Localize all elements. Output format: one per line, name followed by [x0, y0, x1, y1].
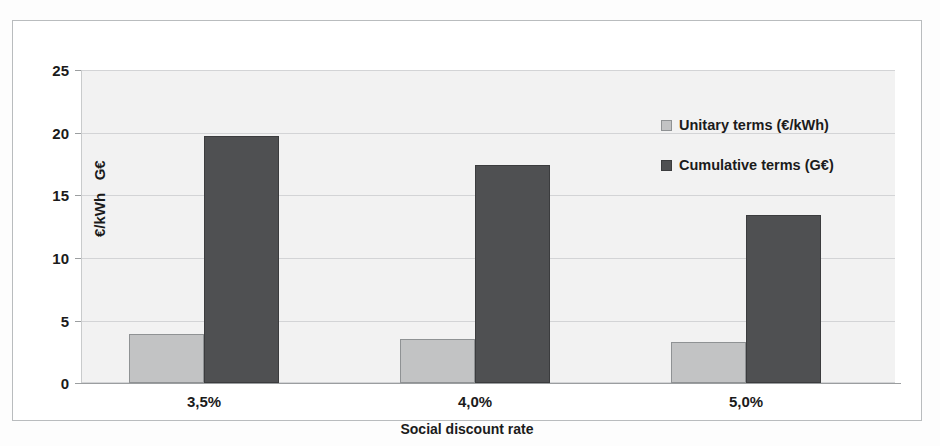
bar-cumulative-3 — [746, 215, 821, 383]
y-tick-label-20: 20 — [29, 126, 69, 141]
y-tick-mark-20 — [75, 133, 81, 134]
chart-frame: 25 20 15 10 5 0 €/kWh G€ 3,5% 4,0% 5,0% … — [12, 20, 922, 421]
bar-unitary-3 — [671, 342, 746, 383]
bar-unitary-1 — [129, 334, 204, 383]
legend-swatch-icon-cumulative — [661, 160, 672, 171]
x-tick-label-3: 5,0% — [666, 393, 826, 410]
y-tick-mark-5 — [75, 321, 81, 322]
y-axis-line — [81, 70, 82, 384]
y-tick-label-0: 0 — [29, 376, 69, 391]
bar-unitary-2 — [400, 339, 475, 383]
x-tick-label-2: 4,0% — [395, 393, 555, 410]
y-tick-mark-10 — [75, 258, 81, 259]
legend-item-cumulative: Cumulative terms (G€) — [661, 157, 881, 173]
gridline-25 — [81, 70, 895, 71]
legend-label-cumulative: Cumulative terms (G€) — [679, 157, 834, 173]
x-axis-line — [75, 383, 901, 384]
y-tick-label-25: 25 — [29, 63, 69, 78]
y-tick-label-5: 5 — [29, 314, 69, 329]
y-tick-mark-0 — [75, 383, 81, 384]
legend-label-unitary: Unitary terms (€/kWh) — [679, 117, 829, 133]
chart-legend: Unitary terms (€/kWh) Cumulative terms (… — [661, 117, 881, 197]
bar-cumulative-1 — [204, 136, 279, 383]
y-tick-mark-15 — [75, 195, 81, 196]
legend-item-unitary: Unitary terms (€/kWh) — [661, 117, 881, 133]
legend-swatch-icon-unitary — [661, 120, 672, 131]
y-axis-title: €/kWh G€ — [91, 57, 111, 237]
bar-cumulative-2 — [475, 165, 550, 383]
y-tick-mark-25 — [75, 70, 81, 71]
x-tick-label-1: 3,5% — [124, 393, 284, 410]
y-tick-label-15: 15 — [29, 188, 69, 203]
x-axis-title: Social discount rate — [13, 421, 921, 437]
y-tick-label-10: 10 — [29, 251, 69, 266]
